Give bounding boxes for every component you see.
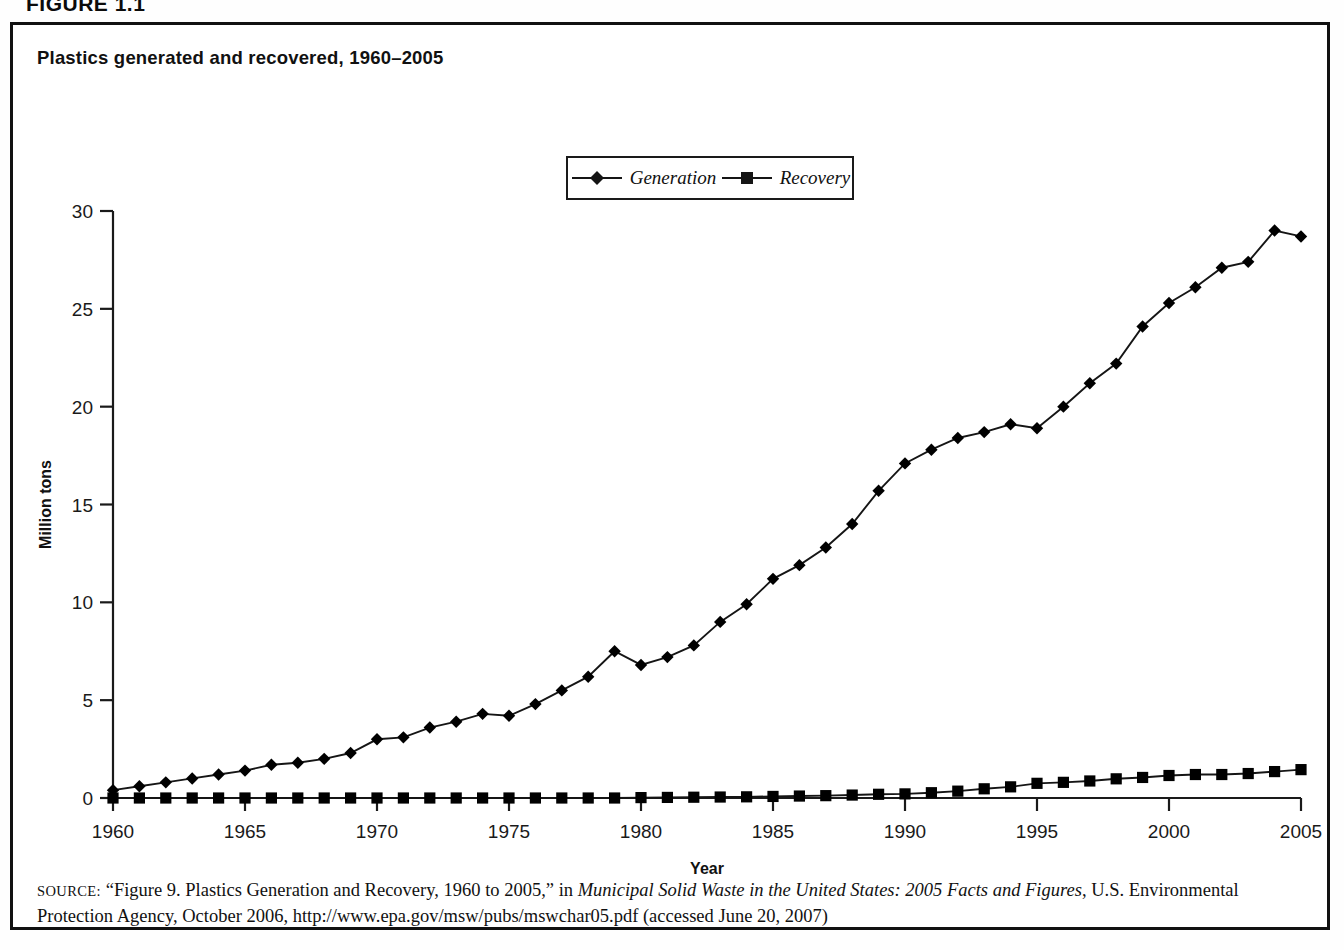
data-point-marker — [345, 792, 356, 803]
data-point-marker — [1084, 775, 1095, 786]
data-point-marker — [371, 733, 383, 745]
data-point-marker — [635, 659, 647, 671]
x-tick-label: 1970 — [356, 821, 398, 842]
data-point-marker — [397, 731, 409, 743]
data-point-marker — [187, 792, 198, 803]
x-tick-label: 1980 — [620, 821, 662, 842]
data-point-marker — [451, 792, 462, 803]
data-point-marker — [213, 792, 224, 803]
data-point-marker — [925, 444, 937, 456]
data-point-marker — [266, 792, 277, 803]
data-point-marker — [952, 432, 964, 444]
data-point-marker — [160, 792, 171, 803]
y-tick-label: 10 — [72, 592, 93, 613]
figure-label: FIGURE 1.1 — [26, 0, 145, 16]
y-tick-label: 0 — [82, 788, 93, 809]
data-point-marker — [107, 792, 118, 803]
x-tick-label: 1985 — [752, 821, 794, 842]
x-tick-label: 2005 — [1280, 821, 1322, 842]
y-tick-label: 30 — [72, 201, 93, 222]
data-point-marker — [424, 792, 435, 803]
data-point-marker — [134, 792, 145, 803]
data-point-marker — [1269, 766, 1280, 777]
data-series-layer — [107, 224, 1307, 803]
data-point-marker — [450, 715, 462, 727]
data-point-marker — [794, 790, 805, 801]
data-point-marker — [978, 426, 990, 438]
source-prefix: SOURCE: — [37, 883, 101, 899]
y-tick-label: 5 — [82, 690, 93, 711]
data-point-marker — [1058, 777, 1069, 788]
data-point-marker — [371, 792, 382, 803]
data-point-marker — [319, 792, 330, 803]
data-point-marker — [239, 792, 250, 803]
data-point-marker — [292, 792, 303, 803]
y-axis-ticks: 051015202530 — [72, 201, 113, 809]
data-point-marker — [926, 787, 937, 798]
data-point-marker — [1004, 418, 1016, 430]
data-point-marker — [1243, 768, 1254, 779]
x-tick-label: 1965 — [224, 821, 266, 842]
source-note: SOURCE: “Figure 9. Plastics Generation a… — [37, 877, 1309, 930]
data-point-marker — [873, 789, 884, 800]
data-point-marker — [556, 792, 567, 803]
y-axis-title: Million tons — [37, 460, 54, 549]
data-point-marker — [186, 772, 198, 784]
data-point-marker — [1190, 769, 1201, 780]
data-point-marker — [609, 792, 620, 803]
data-point-marker — [477, 792, 488, 803]
data-point-marker — [160, 776, 172, 788]
x-tick-label: 2000 — [1148, 821, 1190, 842]
x-axis-title: Year — [690, 860, 724, 877]
y-tick-label: 25 — [72, 299, 93, 320]
data-point-marker — [503, 792, 514, 803]
data-point-marker — [635, 792, 646, 803]
data-point-marker — [847, 789, 858, 800]
data-point-marker — [661, 651, 673, 663]
data-point-marker — [1295, 764, 1306, 775]
data-point-marker — [556, 684, 568, 696]
data-point-marker — [583, 792, 594, 803]
data-point-marker — [265, 759, 277, 771]
data-point-marker — [899, 788, 910, 799]
y-tick-label: 15 — [72, 495, 93, 516]
data-point-marker — [767, 791, 778, 802]
x-tick-label: 1975 — [488, 821, 530, 842]
chart-svg: 051015202530 196019651970197519801985199… — [13, 25, 1333, 933]
data-point-marker — [952, 786, 963, 797]
y-tick-label: 20 — [72, 397, 93, 418]
data-point-marker — [1137, 772, 1148, 783]
x-tick-label: 1960 — [92, 821, 134, 842]
data-point-marker — [1005, 781, 1016, 792]
x-tick-label: 1995 — [1016, 821, 1058, 842]
data-point-marker — [1216, 769, 1227, 780]
x-tick-label: 1990 — [884, 821, 926, 842]
data-point-marker — [344, 747, 356, 759]
data-point-marker — [529, 698, 541, 710]
data-point-marker — [503, 710, 515, 722]
data-point-marker — [424, 721, 436, 733]
data-point-marker — [1163, 770, 1174, 781]
data-point-marker — [239, 764, 251, 776]
data-point-marker — [741, 791, 752, 802]
data-point-marker — [820, 790, 831, 801]
data-point-marker — [133, 780, 145, 792]
data-point-marker — [212, 768, 224, 780]
data-point-marker — [1111, 773, 1122, 784]
source-publication-title: Municipal Solid Waste in the United Stat… — [578, 880, 1082, 900]
figure-container: Plastics generated and recovered, 1960–2… — [10, 22, 1330, 930]
data-point-marker — [1295, 230, 1307, 242]
data-point-marker — [715, 791, 726, 802]
x-axis-ticks: 1960196519701975198019851990199520002005 — [92, 798, 1322, 842]
data-point-marker — [1031, 778, 1042, 789]
source-part1: “Figure 9. Plastics Generation and Recov… — [101, 880, 578, 900]
data-point-marker — [292, 757, 304, 769]
data-point-marker — [793, 559, 805, 571]
data-point-marker — [318, 753, 330, 765]
data-point-marker — [398, 792, 409, 803]
plot-area: 051015202530 196019651970197519801985199… — [13, 25, 1333, 933]
data-point-marker — [476, 708, 488, 720]
data-point-marker — [979, 783, 990, 794]
data-point-marker — [662, 792, 673, 803]
data-point-marker — [530, 792, 541, 803]
